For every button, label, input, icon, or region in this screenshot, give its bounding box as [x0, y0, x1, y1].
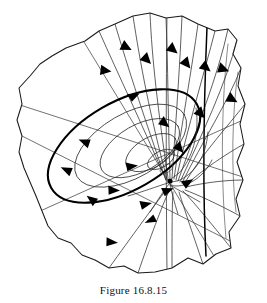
figure-caption: Figure 16.8.15 — [0, 284, 267, 296]
figure-container: Figure 16.8.15 — [0, 0, 267, 303]
phase-portrait-diagram — [0, 0, 267, 285]
region-outline — [17, 13, 245, 273]
equilibrium-focus-point — [167, 178, 172, 183]
